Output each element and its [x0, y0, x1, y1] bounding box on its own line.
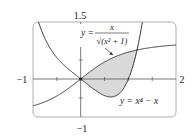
- chart: 1.5 −1 −1 2 y = x √(x² + 1) y = x⁴ − x: [0, 0, 194, 137]
- x-min-label: −1: [17, 74, 28, 85]
- x-max-label: 2: [180, 74, 185, 85]
- svg-text:y =: y =: [80, 28, 94, 38]
- origin-point: [79, 77, 82, 80]
- y-min-label: −1: [77, 123, 88, 134]
- svg-text:x: x: [109, 22, 114, 32]
- y-max-label: 1.5: [74, 10, 87, 21]
- shaded-region: [81, 50, 137, 97]
- svg-text:√(x² + 1): √(x² + 1): [97, 36, 128, 46]
- annotation-curve2: y = x⁴ − x: [119, 96, 159, 106]
- svg-text:y = x⁴ − x: y = x⁴ − x: [119, 96, 159, 106]
